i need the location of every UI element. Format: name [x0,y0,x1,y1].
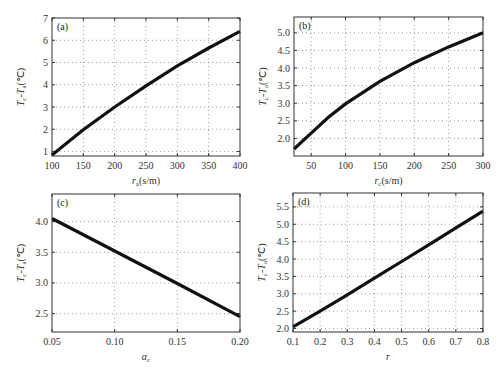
x-tick-label: 0.2 [314,336,327,347]
x-tick-label: 300 [170,160,185,171]
tick-marks [52,194,240,332]
y-axis-label: Tc-Ta(℃) [15,244,28,282]
x-tick-label: 200 [107,160,122,171]
x-tick-label: 250 [441,160,456,171]
panel-label: (a) [57,21,68,33]
y-tick-labels: 2.53.03.54.0 [36,216,49,319]
x-tick-labels: 0.10.20.30.40.50.60.70.8 [287,336,490,347]
y-tick-labels: 2.02.53.03.54.04.55.0 [278,27,291,144]
x-tick-label: 150 [76,160,91,171]
y-tick-label: 2 [43,124,48,135]
x-axis-label: rc(s/m) [374,175,402,188]
x-tick-labels: 50100150200250300 [306,160,490,171]
y-tick-label: 7 [43,13,48,24]
y-tick-label: 2.0 [277,323,290,334]
y-tick-label: 3.5 [36,247,49,258]
x-tick-label: 0.3 [341,336,354,347]
panel-label: (b) [299,20,311,32]
y-tick-label: 5.5 [277,201,290,212]
x-tick-label: 200 [407,160,422,171]
tick-marks [294,17,483,156]
x-tick-label: 0.1 [287,336,300,347]
data-line [52,219,240,317]
x-tick-label: 350 [201,160,216,171]
y-tick-label: 5.0 [278,27,291,38]
y-tick-label: 6 [43,35,48,46]
y-axis-label: Tc-Ta(℃) [256,243,269,281]
y-tick-labels: 1234567 [43,13,48,158]
plot-frame [294,17,483,156]
y-axis-label: Tc-Ta(℃) [15,68,28,106]
panel-label: (d) [298,196,310,208]
grid [52,194,240,332]
plot-frame [52,194,240,332]
y-tick-label: 4.5 [277,236,290,247]
x-tick-label: 0.20 [231,336,249,347]
y-tick-label: 5 [43,57,48,68]
y-tick-label: 4.0 [278,63,291,74]
x-axis-label: αc [142,351,150,364]
x-tick-label: 0.15 [169,336,187,347]
x-tick-labels: 0.050.100.150.20 [43,336,249,347]
y-tick-label: 5.0 [277,219,290,230]
y-tick-label: 2.0 [278,133,291,144]
subplot-b: 501001502002503002.02.53.03.54.04.55.0(b… [257,17,491,188]
y-tick-label: 3.5 [278,80,291,91]
y-tick-label: 4.0 [277,254,290,265]
y-tick-label: 4.0 [36,216,49,227]
x-axis-label: ra(s/m) [132,175,160,188]
y-tick-label: 3.0 [278,98,291,109]
x-tick-label: 0.5 [395,336,408,347]
x-tick-label: 100 [338,160,353,171]
x-tick-label: 0.8 [477,336,490,347]
x-tick-labels: 100150200250300350400 [45,160,248,171]
y-tick-label: 1 [43,146,48,157]
x-tick-label: 250 [139,160,154,171]
x-tick-label: 0.05 [43,336,61,347]
panel-label: (c) [57,197,68,209]
y-tick-label: 2.5 [278,115,291,126]
y-tick-label: 4.5 [278,45,291,56]
y-axis-label: Tc-Ta(℃) [257,67,270,105]
data-line [293,211,483,327]
x-tick-label: 100 [45,160,60,171]
grid [294,17,483,156]
x-tick-label: 300 [476,160,491,171]
data-line [52,31,240,154]
x-tick-label: 0.4 [368,336,381,347]
y-tick-label: 4 [43,79,48,90]
figure: 1001502002503003504001234567(a)ra(s/m)Tc… [0,0,504,377]
subplot-c: 0.050.100.150.202.53.03.54.0(c)αcTc-Ta(℃… [15,194,249,364]
subplot-a: 1001502002503003504001234567(a)ra(s/m)Tc… [15,13,248,189]
x-tick-label: 50 [306,160,316,171]
x-tick-label: 0.6 [422,336,435,347]
y-tick-label: 2.5 [36,308,49,319]
y-tick-labels: 2.02.53.03.54.04.55.05.5 [277,201,290,334]
x-axis-label: r [386,351,390,362]
x-tick-label: 0.10 [106,336,124,347]
subplot-d: 0.10.20.30.40.50.60.70.82.02.53.03.54.04… [256,193,489,362]
x-tick-label: 0.7 [450,336,463,347]
x-tick-label: 400 [233,160,248,171]
y-tick-label: 3 [43,102,48,113]
y-tick-label: 3.0 [36,277,49,288]
y-tick-label: 2.5 [277,306,290,317]
y-tick-label: 3.5 [277,271,290,282]
x-tick-label: 150 [372,160,387,171]
y-tick-label: 3.0 [277,288,290,299]
